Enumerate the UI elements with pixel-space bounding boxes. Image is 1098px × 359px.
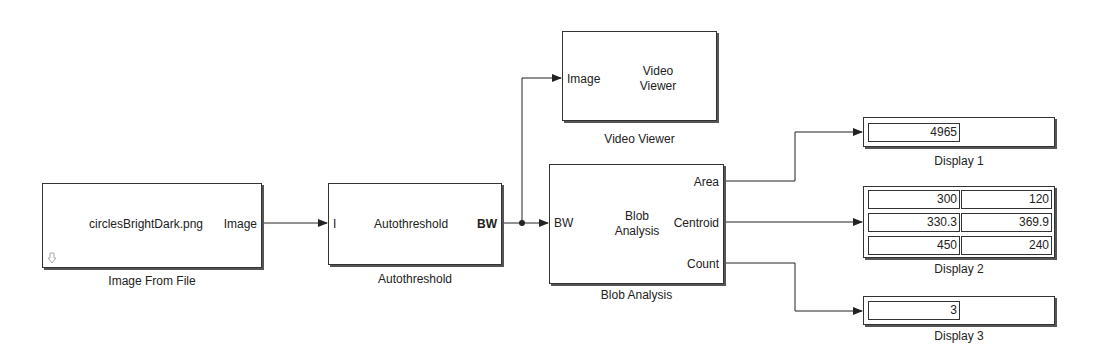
image-out-port: Image	[224, 217, 257, 231]
blob-analysis-label: Blob Analysis	[549, 288, 724, 302]
display2-cell-r2c1: 330.3	[868, 213, 960, 232]
video-viewer-content-line1: Video	[618, 64, 698, 78]
display2-label: Display 2	[863, 262, 1055, 276]
autothreshold-in-port: I	[333, 217, 336, 231]
display2-cell-r1c1: 300	[868, 190, 960, 209]
display3-block[interactable]: 3	[863, 296, 1055, 325]
display2-block[interactable]: 300 120 330.3 369.9 450 240	[863, 186, 1055, 258]
image-from-file-label: Image From File	[42, 274, 262, 288]
autothreshold-block[interactable]: I Autothreshold BW	[328, 183, 502, 265]
display2-cell-r2c2: 369.9	[961, 213, 1052, 232]
image-from-file-block[interactable]: circlesBrightDark.png Image	[42, 183, 262, 268]
autothreshold-content: Autothreshold	[374, 217, 448, 231]
blob-analysis-block[interactable]: BW Blob Analysis Area Centroid Count	[549, 164, 724, 284]
download-arrow-icon	[47, 252, 57, 264]
autothreshold-out-port: BW	[477, 217, 497, 231]
blob-out-port-area: Area	[694, 175, 719, 189]
video-viewer-block[interactable]: Image Video Viewer	[562, 31, 717, 121]
branch-point	[519, 220, 525, 226]
blob-out-port-count: Count	[687, 257, 719, 271]
autothreshold-label: Autothreshold	[328, 272, 502, 286]
video-viewer-in-port: Image	[567, 72, 600, 86]
wire-area-to-display1	[724, 132, 862, 181]
video-viewer-label: Video Viewer	[562, 132, 717, 146]
blob-content-line1: Blob	[602, 209, 672, 223]
display1-value: 4965	[868, 123, 960, 142]
blob-content-line2: Analysis	[602, 224, 672, 238]
display1-block[interactable]: 4965	[863, 117, 1055, 147]
display2-cell-r1c2: 120	[961, 190, 1052, 209]
display1-label: Display 1	[863, 154, 1055, 168]
wire-count-to-display3	[724, 263, 862, 311]
display2-cell-r3c2: 240	[961, 236, 1052, 255]
blob-out-port-centroid: Centroid	[674, 216, 719, 230]
blob-in-port: BW	[554, 216, 573, 230]
image-file-name: circlesBrightDark.png	[89, 217, 203, 231]
display3-value: 3	[868, 301, 960, 320]
video-viewer-content-line2: Viewer	[618, 79, 698, 93]
display3-label: Display 3	[863, 329, 1055, 343]
display2-cell-r3c1: 450	[868, 236, 960, 255]
